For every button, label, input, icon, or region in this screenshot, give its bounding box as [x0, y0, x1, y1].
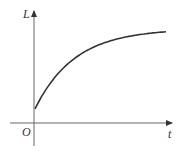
data-curve — [35, 32, 166, 109]
origin-label: O — [22, 126, 31, 138]
y-axis-label: L — [23, 8, 30, 20]
x-axis-label: t — [168, 128, 171, 140]
